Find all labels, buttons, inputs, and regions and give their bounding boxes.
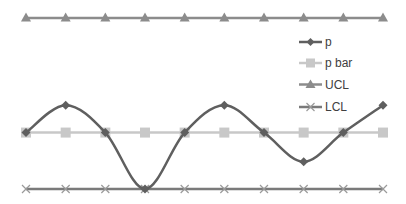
diamond-marker-icon bbox=[307, 38, 315, 46]
legend-item-ucl: UCL bbox=[299, 78, 349, 92]
legend-label: p bbox=[325, 35, 332, 49]
series-ucl bbox=[21, 13, 388, 22]
legend-item-p-bar: p bar bbox=[299, 56, 352, 70]
legend-item-p: p bbox=[299, 35, 332, 49]
diamond-marker-icon bbox=[61, 101, 70, 110]
series-p bbox=[22, 101, 388, 194]
control-chart: p p bar UCL LCL bbox=[0, 0, 406, 204]
square-marker-icon bbox=[140, 128, 150, 138]
legend-label: p bar bbox=[325, 56, 352, 70]
square-marker-icon bbox=[299, 128, 309, 138]
square-marker-icon bbox=[306, 59, 315, 68]
series-p-bar bbox=[21, 128, 388, 138]
diamond-marker-icon bbox=[299, 157, 308, 166]
series-line bbox=[26, 105, 383, 189]
series-lcl bbox=[22, 185, 387, 193]
legend-item-lcl: LCL bbox=[299, 100, 347, 114]
legend-label: LCL bbox=[325, 100, 347, 114]
legend: p p bar UCL LCL bbox=[299, 35, 352, 114]
legend-label: UCL bbox=[325, 78, 349, 92]
square-marker-icon bbox=[219, 128, 229, 138]
diamond-marker-icon bbox=[220, 101, 229, 110]
square-marker-icon bbox=[378, 128, 388, 138]
square-marker-icon bbox=[61, 128, 71, 138]
